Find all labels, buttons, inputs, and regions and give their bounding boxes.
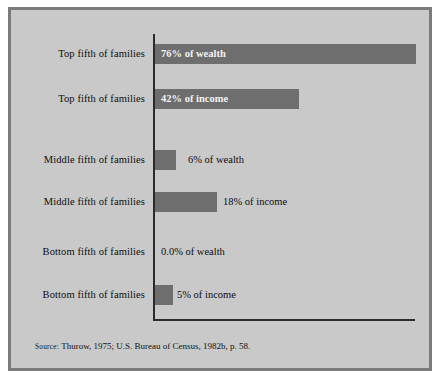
bar-value-label: 5% of income [177,285,236,305]
bar-value-label: 0.0% of wealth [161,242,225,262]
horizontal-axis-line [153,319,415,321]
category-label: Middle fifth of families [11,147,145,173]
bar-value-label: 6% of wealth [188,150,244,170]
source-text: Thurow, 1975; U.S. Bureau of Census, 198… [61,341,250,351]
bar-value-label: 42% of income [155,89,228,109]
vertical-axis-line [153,34,155,321]
category-label: Middle fifth of families [11,189,145,215]
bar [155,285,173,305]
category-label: Top fifth of families [11,86,145,112]
bar-value-label: 18% of income [223,192,287,212]
category-label: Top fifth of families [11,41,145,67]
bar [155,192,217,212]
category-label: Bottom fifth of families [11,239,145,265]
source-prefix: Source: [35,343,59,351]
bar [155,150,176,170]
bar-chart: Top fifth of families 76% of wealth Top … [11,10,429,368]
figure-frame: Top fifth of families 76% of wealth Top … [8,7,432,371]
category-label: Bottom fifth of families [11,282,145,308]
source-note: Source: Thurow, 1975; U.S. Bureau of Cen… [35,341,250,351]
bar-value-label: 76% of wealth [155,44,226,64]
